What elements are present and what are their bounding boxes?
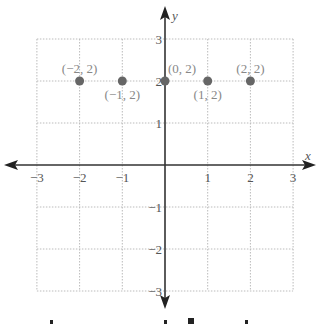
point-label: (1, 2) [194, 87, 222, 102]
x-tick-label: −1 [115, 170, 129, 185]
footer-glyph-fragment [50, 320, 53, 324]
data-point [203, 77, 212, 86]
point-label: (−1, 2) [105, 87, 141, 102]
y-axis-label: y [170, 8, 178, 23]
cut-off-footer [50, 318, 248, 324]
data-point [118, 77, 127, 86]
footer-glyph-fragment [188, 318, 194, 324]
data-point [161, 77, 170, 86]
y-tick-label: 3 [156, 32, 163, 47]
point-label: (0, 2) [168, 61, 196, 76]
coordinate-plane: x y −3−2−1123−3−2−1123 (−2, 2)(−1, 2)(0,… [0, 0, 320, 324]
data-point [246, 77, 255, 86]
x-tick-label: 2 [247, 170, 254, 185]
y-tick-label: −3 [148, 284, 162, 299]
x-tick-label: 1 [204, 170, 211, 185]
footer-glyph-fragment [245, 320, 248, 324]
y-tick-label: −1 [148, 200, 162, 215]
footer-glyph-fragment [164, 320, 167, 324]
y-tick-label: 1 [156, 116, 163, 131]
point-label: (2, 2) [236, 61, 264, 76]
y-tick-label: −2 [148, 242, 162, 257]
point-label: (−2, 2) [62, 61, 98, 76]
x-axis-label: x [304, 148, 311, 163]
x-tick-label: −3 [30, 170, 44, 185]
x-tick-label: 3 [290, 170, 297, 185]
x-tick-label: −2 [73, 170, 87, 185]
data-point [75, 77, 84, 86]
axes: x y [4, 6, 316, 309]
